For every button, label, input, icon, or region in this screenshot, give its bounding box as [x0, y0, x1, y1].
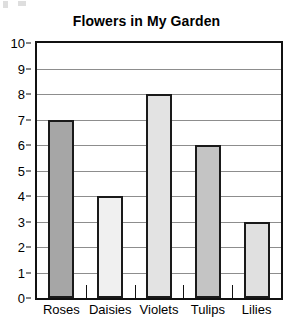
chart-title: Flowers in My Garden [0, 13, 293, 29]
y-tick-mark [26, 119, 31, 120]
bar-chart-figure: Flowers in My Garden 012345678910 RosesD… [0, 0, 293, 330]
y-tick-mark [26, 68, 31, 69]
category-separator [183, 285, 184, 298]
category-separator [232, 285, 233, 298]
x-tick-label-tulips: Tulips [191, 302, 225, 317]
category-separator [135, 285, 136, 298]
plot-area [35, 41, 283, 300]
y-tick-mark [26, 94, 31, 95]
y-tick-mark [26, 43, 31, 44]
x-tick-label-roses: Roses [43, 302, 80, 317]
y-tick-label: 4 [18, 190, 25, 203]
y-tick-label: 9 [18, 62, 25, 75]
x-axis: RosesDaisiesVioletsTulipsLilies [35, 302, 283, 324]
category-separator [86, 285, 87, 298]
bar-daisies [97, 196, 123, 298]
bar-tulips [195, 145, 221, 298]
x-tick-label-violets: Violets [140, 302, 179, 317]
y-tick-label: 3 [18, 215, 25, 228]
y-tick-label: 7 [18, 113, 25, 126]
x-tick-label-lilies: Lilies [242, 302, 272, 317]
y-tick-label: 8 [18, 88, 25, 101]
scan-artifact [3, 1, 29, 10]
y-tick-mark [26, 247, 31, 248]
y-tick-mark [26, 221, 31, 222]
y-tick-label: 5 [18, 164, 25, 177]
y-tick-mark [26, 272, 31, 273]
bar-violets [146, 94, 172, 298]
y-tick-label: 0 [18, 292, 25, 305]
bar-lilies [244, 222, 270, 299]
bar-roses [48, 120, 74, 299]
y-tick-label: 6 [18, 139, 25, 152]
y-tick-mark [26, 196, 31, 197]
y-tick-label: 10 [11, 37, 25, 50]
y-tick-mark [26, 145, 31, 146]
y-tick-mark [26, 298, 31, 299]
y-tick-label: 1 [18, 266, 25, 279]
y-tick-label: 2 [18, 241, 25, 254]
y-tick-mark [26, 170, 31, 171]
y-axis: 012345678910 [0, 41, 31, 300]
x-tick-label-daisies: Daisies [89, 302, 132, 317]
bars-layer [37, 43, 281, 298]
